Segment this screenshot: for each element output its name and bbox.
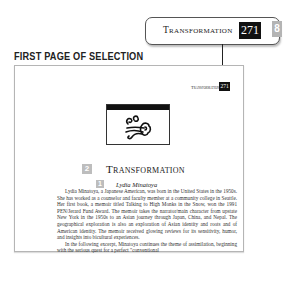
chapter-number-badge: 2 (82, 164, 92, 174)
page-preview: Transformation 271 2 Transformation 1 Ly… (14, 65, 244, 252)
wind-swirl-icon (124, 114, 152, 140)
section-label: FIRST PAGE OF SELECTION (14, 51, 143, 62)
body-text: Lydia Minatoya, a Japanese American, was… (57, 188, 237, 254)
emblem-bar (107, 105, 169, 110)
author-name: Lydia Minatoya (116, 181, 157, 188)
running-page-number: 271 (219, 82, 230, 91)
paragraph: Lydia Minatoya, a Japanese American, was… (57, 188, 237, 241)
chapter-emblem (106, 104, 170, 145)
running-head-callout: Transformation 271 (145, 17, 280, 45)
callout-number-badge: 8 (272, 21, 282, 37)
running-head: Transformation (191, 85, 219, 90)
callout-title: Transformation (163, 25, 233, 35)
callout-page-number: 271 (239, 22, 261, 39)
paragraph: In the following excerpt, Minatoya conti… (57, 241, 237, 254)
